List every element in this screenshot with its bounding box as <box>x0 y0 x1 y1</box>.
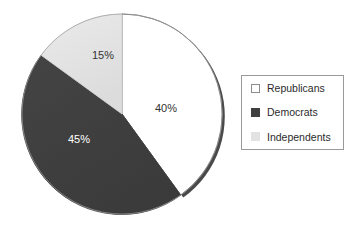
legend-item-independents[interactable]: Independents <box>251 125 343 149</box>
legend-swatch-icon-democrats <box>251 108 260 117</box>
chart-legend: Republicans Democrats Independents <box>241 75 344 150</box>
legend-label-independents: Independents <box>267 132 331 143</box>
pie-chart: 40% 45% 15% Republicans Democrats Indepe… <box>0 0 358 232</box>
legend-item-democrats[interactable]: Democrats <box>251 100 343 124</box>
slice-label-democrats: 45% <box>68 133 90 145</box>
legend-item-republicans[interactable]: Republicans <box>251 76 343 100</box>
legend-label-republicans: Republicans <box>267 83 325 94</box>
legend-swatch-icon-republicans <box>251 84 260 93</box>
legend-swatch-icon-independents <box>251 132 260 141</box>
slice-label-independents: 15% <box>92 49 114 61</box>
legend-label-democrats: Democrats <box>267 107 318 118</box>
slice-label-republicans: 40% <box>155 102 177 114</box>
